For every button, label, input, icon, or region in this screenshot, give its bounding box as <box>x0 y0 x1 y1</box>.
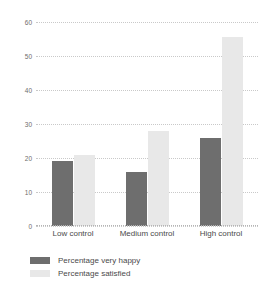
legend-label: Percentage very happy <box>58 255 140 266</box>
y-axis-tick-label: 30 <box>25 122 32 129</box>
bar-very-happy <box>52 161 73 226</box>
plot-area: 0102030405060 <box>36 22 258 226</box>
y-axis-tick-label: 60 <box>25 20 32 27</box>
x-axis-category-label: High control <box>200 228 243 240</box>
bars-layer <box>36 22 258 226</box>
bar-very-happy <box>200 138 221 226</box>
y-axis-tick-label: 0 <box>28 224 32 231</box>
x-axis-labels: Low controlMedium controlHigh control <box>36 228 258 244</box>
legend-label: Percentage satisfied <box>58 268 131 279</box>
legend-swatch-icon <box>30 270 50 277</box>
bar-satisfied <box>74 155 95 226</box>
x-axis-baseline <box>36 225 258 226</box>
gridline: 0 <box>36 226 258 227</box>
y-axis-tick-label: 20 <box>25 156 32 163</box>
y-axis-tick-label: 50 <box>25 54 32 61</box>
y-axis-tick-label: 10 <box>25 190 32 197</box>
legend-swatch-icon <box>30 257 50 264</box>
bar-very-happy <box>126 172 147 226</box>
bar-group <box>52 22 95 226</box>
bar-chart: 0102030405060 Low controlMedium controlH… <box>0 0 271 299</box>
chart-legend: Percentage very happyPercentage satisfie… <box>30 254 140 280</box>
bar-satisfied <box>148 131 169 226</box>
bar-group <box>126 22 169 226</box>
bar-group <box>200 22 243 226</box>
x-axis-category-label: Low control <box>53 228 94 240</box>
y-axis-tick-label: 40 <box>25 88 32 95</box>
x-axis-category-label: Medium control <box>120 228 175 240</box>
legend-item: Percentage very happy <box>30 254 140 267</box>
bar-satisfied <box>222 37 243 226</box>
legend-item: Percentage satisfied <box>30 267 140 280</box>
